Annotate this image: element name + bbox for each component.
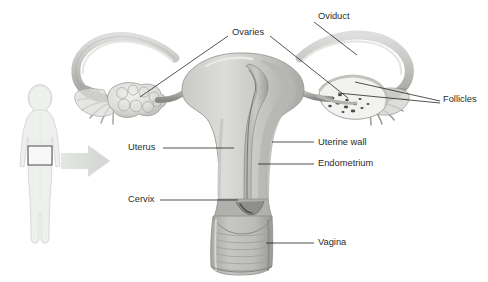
label-vagina: Vagina xyxy=(318,237,347,247)
labels-group: Ovaries Oviduct Follicles Uterus Uterine… xyxy=(128,11,477,247)
anatomy-diagram: Ovaries Oviduct Follicles Uterus Uterine… xyxy=(0,0,488,282)
magnify-arrow-icon xyxy=(61,145,110,177)
label-oviduct: Oviduct xyxy=(318,11,350,21)
vagina xyxy=(211,216,273,275)
label-ovaries: Ovaries xyxy=(232,27,264,37)
label-follicles: Follicles xyxy=(443,94,477,104)
vagina-right-shading xyxy=(268,220,269,270)
pelvis-highlight-box xyxy=(28,146,52,165)
vagina-left-highlight xyxy=(215,220,216,270)
label-uterus: Uterus xyxy=(128,142,156,152)
label-cervix: Cervix xyxy=(128,194,155,204)
label-endometrium: Endometrium xyxy=(318,158,374,168)
diagram-canvas: Ovaries Oviduct Follicles Uterus Uterine… xyxy=(0,0,488,282)
label-uterine-wall: Uterine wall xyxy=(318,137,367,147)
reproductive-anatomy xyxy=(75,35,410,275)
